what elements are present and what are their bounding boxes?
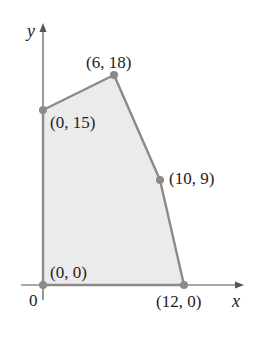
vertex-12-0: [180, 281, 188, 289]
vertex-0-15: [39, 106, 47, 114]
vertex-label-12-0: (12, 0): [156, 293, 201, 310]
vertex-0-0: [39, 281, 47, 289]
y-axis-arrow-icon: [40, 23, 47, 32]
feasible-region-diagram: y x 0 (0, 0) (0, 15) (6, 18) (10, 9) (12…: [0, 0, 260, 341]
vertex-label-6-18: (6, 18): [86, 54, 131, 71]
vertex-label-0-0: (0, 0): [50, 264, 87, 281]
vertex-label-10-9: (10, 9): [169, 170, 214, 187]
x-axis-label: x: [232, 292, 240, 310]
vertex-6-18: [110, 71, 118, 79]
diagram-canvas: [0, 0, 260, 341]
origin-label: 0: [29, 292, 38, 309]
x-axis-arrow-icon: [235, 282, 244, 289]
vertex-label-0-15: (0, 15): [50, 114, 95, 131]
vertex-10-9: [156, 176, 164, 184]
y-axis-label: y: [27, 22, 35, 40]
